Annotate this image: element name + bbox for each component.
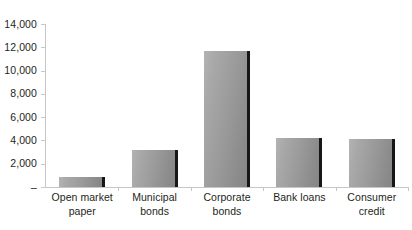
bar-slot — [349, 24, 395, 187]
x-axis-category-label: Municipalbonds — [118, 191, 190, 218]
y-axis-tick-label: 12,000 — [4, 42, 37, 53]
x-axis-category-label-line1: Bank loans — [263, 191, 335, 205]
x-axis-category-label-line1: Consumer — [336, 191, 408, 205]
x-axis-category-label-line1: Open market — [46, 191, 118, 205]
y-axis-tick-label: 2,000 — [10, 158, 37, 169]
x-axis-line — [45, 187, 408, 188]
bar-slot — [132, 24, 178, 187]
y-axis-tick-mark — [41, 94, 45, 95]
y-axis-label-group: 14,00012,00010,0008,0006,0004,0002,000– — [0, 0, 44, 230]
y-axis-tick-mark — [41, 164, 45, 165]
x-axis-tick-mark — [408, 187, 409, 191]
y-axis-tick-label: 14,000 — [4, 19, 37, 30]
bar-chart: 14,00012,00010,0008,0006,0004,0002,000– … — [0, 0, 412, 230]
x-axis-category-label-line1: Corporate — [191, 191, 263, 205]
y-axis-tick-label: 10,000 — [4, 65, 37, 76]
bar-slot — [276, 24, 322, 187]
x-axis-category-label: Consumercredit — [336, 191, 408, 218]
plot-area — [46, 24, 408, 187]
y-axis-tick-mark — [41, 47, 45, 48]
x-axis-category-label-line2: paper — [46, 205, 118, 219]
bar-slot — [204, 24, 250, 187]
y-axis-tick-label: – — [31, 182, 37, 193]
x-axis-label-group: Open marketpaperMunicipalbondsCorporateb… — [46, 191, 408, 230]
bar — [132, 150, 178, 187]
bar — [276, 138, 322, 187]
x-axis-category-label-line2: bonds — [191, 205, 263, 219]
y-axis-tick-mark — [41, 140, 45, 141]
y-axis-tick-mark — [41, 117, 45, 118]
y-axis-tick-mark — [41, 71, 45, 72]
bar — [204, 51, 250, 187]
x-axis-category-label: Corporatebonds — [191, 191, 263, 218]
bar — [59, 177, 105, 187]
x-axis-category-label-line2: credit — [336, 205, 408, 219]
y-axis-tick-label: 4,000 — [10, 135, 37, 146]
x-axis-category-label: Open marketpaper — [46, 191, 118, 218]
bar-slot — [59, 24, 105, 187]
y-axis-tick-label: 6,000 — [10, 112, 37, 123]
y-axis-tick-label: 8,000 — [10, 88, 37, 99]
x-axis-category-label: Bank loans — [263, 191, 335, 205]
y-axis-tick-mark — [41, 187, 45, 188]
x-axis-category-label-line1: Municipal — [118, 191, 190, 205]
x-axis-category-label-line2: bonds — [118, 205, 190, 219]
y-axis-tick-mark — [41, 24, 45, 25]
bar — [349, 139, 395, 187]
